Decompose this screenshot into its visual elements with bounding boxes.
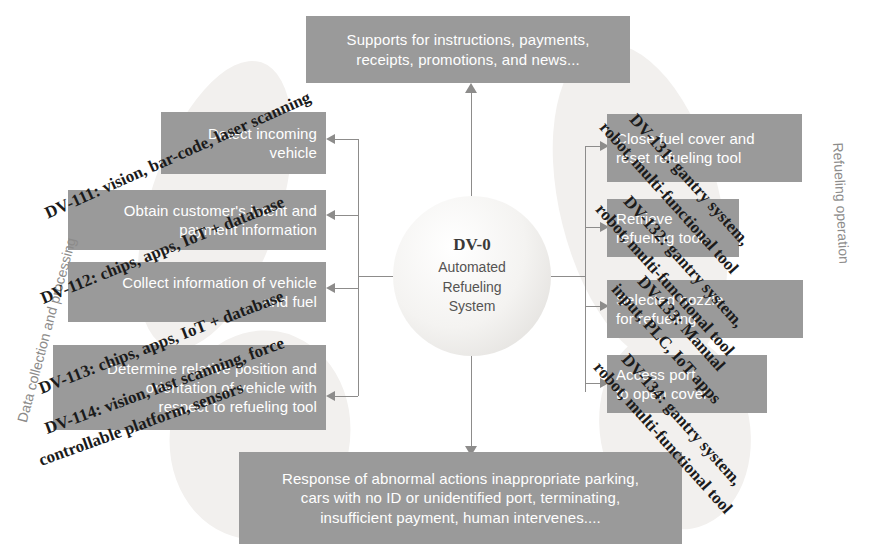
connector-center-to-top (471, 92, 472, 196)
diagram-canvas: Supports for instructions, payments, rec… (0, 0, 872, 559)
arrowhead-left-dv112 (326, 210, 335, 220)
central-node-line1: Automated (438, 258, 506, 278)
box-line: Response of abnormal actions inappropria… (282, 469, 639, 488)
central-node-line3: System (449, 297, 496, 317)
central-node-line2: Refueling (442, 278, 501, 298)
central-node-dv0[interactable]: DV-0 Automated Refueling System (393, 196, 551, 356)
connector-right-trunk (585, 146, 586, 392)
connector-branch-dv133 (585, 306, 601, 307)
connector-branch-dv132 (585, 227, 601, 228)
connector-branch-dv111 (335, 139, 358, 140)
arrowhead-left-dv111 (326, 134, 335, 144)
box-line: cars with no ID or unidentified port, te… (301, 488, 620, 507)
connector-left-trunk (358, 139, 359, 396)
process-box-abnormal-response[interactable]: Response of abnormal actions inappropria… (239, 452, 682, 544)
box-line: receipts, promotions, and news... (356, 50, 579, 69)
box-line: vehicle (270, 143, 317, 162)
arrowhead-left-dv114 (326, 391, 335, 401)
connector-center-left-stub (358, 276, 394, 277)
connector-branch-dv112 (335, 215, 358, 216)
process-box-supports[interactable]: Supports for instructions, payments, rec… (306, 16, 630, 83)
connector-center-right-stub (551, 276, 585, 277)
arrowhead-left-dv113 (326, 283, 335, 293)
caption-refueling-operation: Refueling operation (830, 142, 852, 264)
central-node-id: DV-0 (453, 235, 490, 255)
connector-branch-dv113 (335, 288, 358, 289)
connector-branch-dv114 (335, 396, 358, 397)
arrowhead-up-top (465, 83, 477, 93)
connector-branch-dv131 (585, 146, 601, 147)
connector-center-to-bottom (471, 356, 472, 452)
box-line: Supports for instructions, payments, (347, 30, 590, 49)
box-line: insufficient payment, human intervenes..… (320, 508, 601, 527)
box-line: Collect information of vehicle (122, 273, 317, 292)
